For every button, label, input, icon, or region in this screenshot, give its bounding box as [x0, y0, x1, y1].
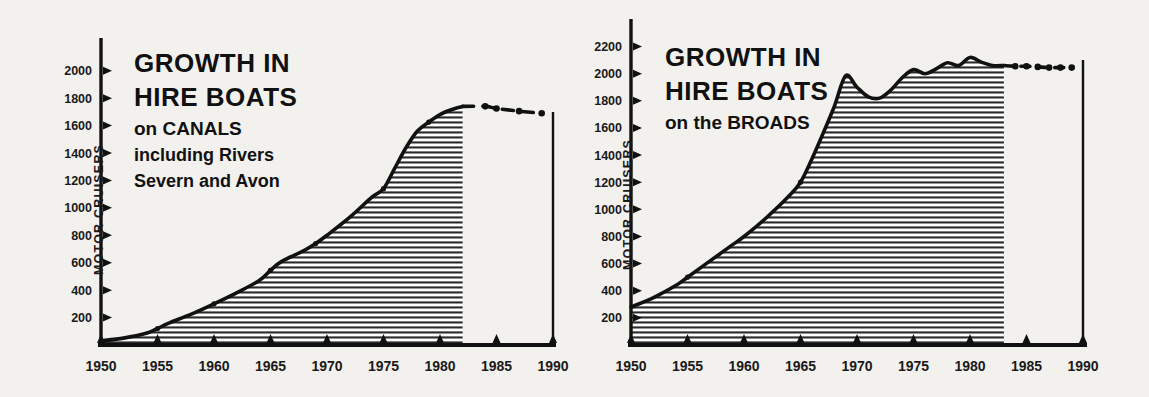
x-tick-mark [549, 334, 557, 343]
y-tick-label: 1600 [594, 121, 622, 135]
chart-title-canals: GROWTH IN HIRE BOATS on CANALS including… [134, 48, 297, 191]
poster-background: 200400600800100012001400160018002000 195… [0, 0, 1149, 397]
data-point-marker [155, 326, 160, 331]
x-tick-label: 1950 [615, 358, 646, 374]
projection-point-marker [538, 110, 545, 117]
y-tick-mark [103, 314, 112, 322]
title-line-2-canals: HIRE BOATS [134, 82, 297, 112]
y-axis-title-canals: MOTOR CRUISERS [92, 144, 106, 275]
y-tick-mark [103, 94, 112, 102]
subtitle-line-1-broads: on the BROADS [665, 112, 810, 133]
y-axis-tick-labels-broads: 2004006008001000120014001600180020002200 [594, 40, 622, 325]
y-tick-mark [103, 122, 112, 130]
x-axis-tick-labels-canals: 195019551960196519701975198019851990 [85, 358, 568, 374]
x-tick-label: 1960 [728, 358, 759, 374]
y-tick-mark [103, 67, 112, 75]
y-tick-mark [633, 124, 642, 132]
y-axis-title-broads: MOTOR CRUISERS [621, 139, 635, 270]
projection-point-marker [1068, 64, 1075, 71]
data-point-marker [313, 241, 318, 246]
y-tick-label: 2200 [594, 40, 622, 54]
x-tick-label: 1955 [142, 358, 173, 374]
projection-point-marker [516, 108, 523, 115]
y-tick-label: 1200 [594, 176, 622, 190]
x-tick-label: 1980 [954, 358, 985, 374]
x-tick-label: 1950 [85, 358, 116, 374]
x-tick-label: 1990 [1067, 358, 1098, 374]
y-tick-label: 1800 [64, 92, 92, 106]
projection-line-canals [463, 106, 542, 113]
x-tick-label: 1975 [898, 358, 929, 374]
x-tick-label: 1975 [368, 358, 399, 374]
plot-area-canals [101, 103, 545, 345]
x-tick-label: 1990 [537, 358, 568, 374]
projection-point-marker [1046, 64, 1053, 71]
y-axis-tick-labels-canals: 200400600800100012001400160018002000 [64, 64, 92, 325]
y-tick-mark [633, 287, 642, 295]
data-point-marker [381, 186, 386, 191]
projection-point-marker [1057, 64, 1064, 71]
chart-title-broads: GROWTH IN HIRE BOATS on the BROADS [665, 42, 828, 133]
data-point-marker [211, 301, 216, 306]
y-tick-mark [633, 97, 642, 105]
y-tick-label: 400 [601, 284, 622, 298]
data-point-marker [268, 268, 273, 273]
y-tick-label: 1000 [64, 201, 92, 215]
projection-point-marker [493, 105, 500, 112]
chart-canals-svg: 200400600800100012001400160018002000 195… [0, 0, 574, 397]
subtitle-line-1-canals: on CANALS [134, 118, 242, 139]
y-tick-mark [633, 43, 642, 51]
projection-point-marker [1023, 63, 1030, 70]
y-tick-label: 1200 [64, 174, 92, 188]
subtitle-line-3-canals: Severn and Avon [134, 171, 280, 191]
x-tick-label: 1970 [841, 358, 872, 374]
y-tick-label: 400 [71, 284, 92, 298]
y-tick-label: 1800 [594, 94, 622, 108]
x-tick-label: 1985 [1011, 358, 1042, 374]
projection-point-marker [1035, 64, 1042, 71]
x-tick-mark [1023, 334, 1031, 343]
x-tick-label: 1970 [311, 358, 342, 374]
y-tick-mark [633, 70, 642, 78]
y-tick-label: 600 [71, 256, 92, 270]
y-tick-label: 1400 [64, 147, 92, 161]
y-tick-label: 2000 [64, 64, 92, 78]
x-tick-mark [1079, 334, 1087, 343]
x-axis-tick-labels-broads: 195019551960196519701975198019851990 [615, 358, 1098, 374]
x-tick-label: 1985 [481, 358, 512, 374]
y-tick-label: 800 [601, 230, 622, 244]
y-tick-label: 1400 [594, 149, 622, 163]
x-tick-mark [493, 334, 501, 343]
y-tick-label: 800 [71, 229, 92, 243]
x-tick-label: 1960 [198, 358, 229, 374]
y-tick-label: 600 [601, 257, 622, 271]
chart-broads-svg: 2004006008001000120014001600180020002200… [575, 0, 1149, 397]
title-line-2-broads: HIRE BOATS [665, 76, 828, 106]
projection-point-marker [1012, 63, 1019, 70]
y-tick-label: 200 [601, 311, 622, 325]
y-tick-label: 1600 [64, 119, 92, 133]
chart-broads: 2004006008001000120014001600180020002200… [575, 0, 1149, 397]
x-tick-label: 1955 [672, 358, 703, 374]
projection-point-marker [482, 103, 489, 110]
x-tick-label: 1965 [785, 358, 816, 374]
title-line-1-broads: GROWTH IN [665, 42, 821, 72]
y-tick-label: 2000 [594, 67, 622, 81]
y-tick-mark [103, 286, 112, 294]
data-point-marker [426, 120, 431, 125]
chart-canals: 200400600800100012001400160018002000 195… [0, 0, 574, 397]
data-point-marker [685, 275, 690, 280]
y-tick-label: 200 [71, 311, 92, 325]
subtitle-line-2-canals: including Rivers [134, 145, 274, 165]
x-tick-label: 1965 [255, 358, 286, 374]
title-line-1-canals: GROWTH IN [134, 48, 290, 78]
data-point-marker [798, 180, 803, 185]
x-tick-label: 1980 [424, 358, 455, 374]
x-tick-mark [97, 334, 105, 343]
y-tick-label: 1000 [594, 203, 622, 217]
